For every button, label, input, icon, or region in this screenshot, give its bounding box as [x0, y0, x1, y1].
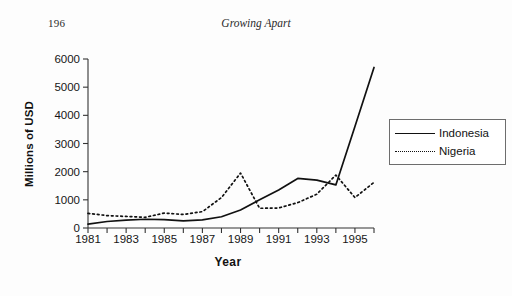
x-tick-label: 1991 — [266, 233, 292, 245]
chart-legend: Indonesia Nigeria — [389, 119, 506, 165]
x-tick-label: 1987 — [190, 233, 216, 245]
y-tick-label: 2000 — [30, 166, 80, 178]
series-line — [88, 173, 374, 217]
legend-label: Indonesia — [435, 127, 489, 139]
dotted-line-icon — [395, 146, 435, 156]
x-tick-label: 1989 — [228, 233, 254, 245]
x-tick-label: 1983 — [113, 233, 139, 245]
y-tick-label: 4000 — [30, 109, 80, 121]
y-tick-label: 3000 — [30, 138, 80, 150]
chart-y-axis-title: Millions of USD — [23, 74, 35, 214]
chart-figure: 0100020003000400050006000 19811983198519… — [0, 40, 512, 296]
x-tick-label: 1995 — [342, 233, 368, 245]
x-tick-label: 1981 — [75, 233, 101, 245]
x-tick-label: 1993 — [304, 233, 330, 245]
y-tick-label: 5000 — [30, 81, 80, 93]
running-head: Growing Apart — [0, 17, 512, 29]
solid-line-icon — [395, 128, 435, 138]
legend-item-indonesia: Indonesia — [390, 124, 505, 142]
legend-item-nigeria: Nigeria — [390, 142, 505, 160]
legend-label: Nigeria — [435, 145, 475, 157]
x-tick-label: 1985 — [151, 233, 177, 245]
y-tick-label: 1000 — [30, 194, 80, 206]
chart-y-ticks — [83, 59, 88, 228]
y-tick-label: 6000 — [30, 53, 80, 65]
chart-x-axis-title: Year — [88, 255, 368, 269]
book-page: 196 Growing Apart 0100020003000400050006… — [0, 0, 512, 296]
y-tick-label: 0 — [30, 222, 80, 234]
series-line — [88, 67, 374, 224]
chart-series-lines — [88, 67, 374, 224]
chart-axes — [88, 59, 374, 228]
